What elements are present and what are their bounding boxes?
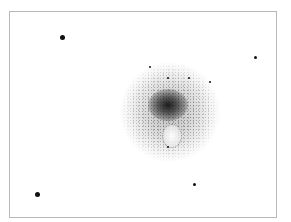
star-0 [60,35,65,40]
star-5 [167,77,169,79]
star-3 [193,183,196,186]
star-6 [188,77,190,79]
star-1 [254,56,257,59]
star-8 [167,146,169,148]
star-4 [149,66,151,68]
sketch-frame [9,11,277,218]
star-2 [35,192,40,197]
star-7 [209,81,211,83]
nebula-core [148,89,188,121]
nebula-hollow [162,124,182,148]
